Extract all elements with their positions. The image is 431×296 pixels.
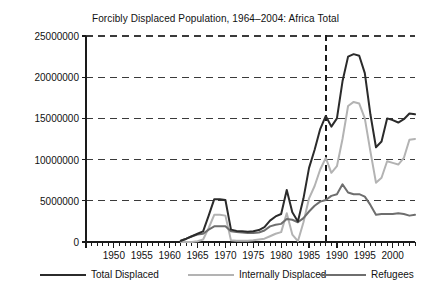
x-axis-tick-label: 1970: [214, 250, 236, 261]
x-axis-tick-label: 1960: [159, 250, 181, 261]
x-axis-ticks: [86, 242, 415, 248]
legend-line-swatch: [320, 274, 366, 276]
x-axis-tick-label: 1965: [186, 250, 208, 261]
series-lines: [181, 54, 415, 242]
axes: [86, 36, 415, 242]
chart-figure: Forcibly Displaced Population, 1964–2004…: [0, 0, 431, 296]
legend-item[interactable]: Refugees: [320, 266, 414, 284]
legend-line-swatch: [40, 274, 86, 276]
x-axis-tick-label: 1955: [131, 250, 153, 261]
y-axis-tick-label: 15000000: [35, 113, 80, 124]
y-axis-tick-label: 5000000: [40, 195, 79, 206]
x-axis-tick-label: 1990: [326, 250, 348, 261]
series-line-total-displaced: [181, 54, 415, 241]
y-axis-tick-label: 0: [73, 237, 79, 248]
legend-label: Internally Displaced: [239, 270, 326, 280]
legend-label: Total Displaced: [91, 270, 159, 280]
x-axis-tick-label: 2000: [382, 250, 404, 261]
legend-item[interactable]: Internally Displaced: [188, 266, 326, 284]
series-line-refugees: [181, 184, 415, 240]
chart-legend: Total DisplacedInternally DisplacedRefug…: [0, 266, 431, 284]
x-axis-tick-label: 1950: [103, 250, 125, 261]
y-axis-tick-label: 25000000: [35, 31, 80, 42]
y-axis-tick-label: 10000000: [35, 154, 80, 165]
y-axis-tick-label: 20000000: [35, 72, 80, 83]
legend-item[interactable]: Total Displaced: [40, 266, 159, 284]
x-axis-tick-label: 1985: [298, 250, 320, 261]
legend-line-swatch: [188, 274, 234, 276]
legend-label: Refugees: [371, 270, 414, 280]
x-axis-tick-label: 1995: [354, 250, 376, 261]
x-axis-tick-label: 1975: [242, 250, 264, 261]
x-axis-tick-label: 1980: [270, 250, 292, 261]
